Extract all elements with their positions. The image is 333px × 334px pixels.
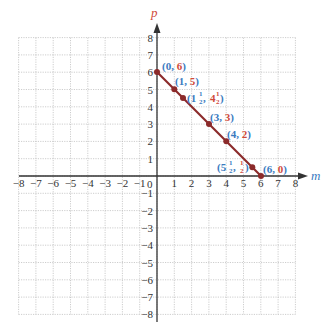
x-axis-arrow-icon [298, 173, 308, 180]
y-tick-label: 8 [148, 32, 154, 44]
svg-text:,: , [233, 161, 236, 173]
point-0-6 [154, 69, 160, 75]
y-tick-label: −7 [141, 291, 153, 303]
y-tick-label: 1 [148, 153, 154, 165]
point-5.5-0.5 [249, 164, 255, 170]
svg-text:2: 2 [240, 167, 244, 175]
svg-text:(5: (5 [217, 161, 227, 174]
x-tick-label: −2 [117, 177, 129, 189]
y-tick-label: −8 [141, 308, 153, 320]
svg-text:): ) [220, 92, 224, 105]
y-tick-label: −6 [141, 274, 153, 286]
label-point-1-5: (1, 5) [175, 75, 199, 88]
y-tick-label: 5 [148, 84, 154, 96]
svg-text:,: , [203, 92, 206, 104]
x-tick-label: −6 [47, 177, 59, 189]
x-tick-label: −7 [30, 177, 42, 189]
point-1.5-4.5 [180, 95, 186, 101]
x-tick-label: −8 [13, 177, 25, 189]
coordinate-plane: −8−7−6−5−4−3−2−112345678−8−7−6−5−4−3−2−1… [0, 0, 333, 334]
y-tick-label: −5 [141, 257, 153, 269]
y-tick-label: −3 [141, 222, 153, 234]
x-tick-label: 8 [293, 177, 299, 189]
y-tick-label: 2 [148, 135, 154, 147]
x-tick-label: 7 [275, 177, 281, 189]
y-tick-label: 3 [148, 118, 154, 130]
y-tick-label: −4 [141, 239, 153, 251]
label-point-1.5-4.5: (1 1 2 , 4 1 2 ) [187, 90, 224, 106]
svg-text:1: 1 [240, 159, 244, 167]
svg-text:): ) [245, 161, 249, 174]
x-tick-label: 5 [241, 177, 247, 189]
point-1-5 [171, 86, 177, 92]
y-tick-label: 6 [148, 66, 154, 78]
label-point-5.5-0.5: (5 1 2 , 1 2 ) [217, 159, 249, 175]
y-axis-arrow-icon [154, 23, 161, 33]
x-tick-label: 3 [206, 177, 212, 189]
x-tick-label: −3 [99, 177, 111, 189]
y-axis-label: p [150, 5, 158, 20]
x-tick-label: −5 [65, 177, 77, 189]
label-point-3-3: (3, 3) [210, 111, 234, 124]
svg-text:(1: (1 [187, 92, 196, 105]
x-tick-label: 1 [172, 177, 178, 189]
label-point-4-2: (4, 2) [227, 128, 251, 141]
label-point-0-6: (0, 6) [162, 60, 186, 73]
y-tick-label: 7 [148, 49, 154, 61]
x-tick-label: 4 [223, 177, 229, 189]
label-point-6-0: (6, 0) [263, 163, 287, 176]
x-axis-label: m [311, 168, 320, 183]
y-tick-label: −2 [141, 205, 153, 217]
x-tick-label: −4 [82, 177, 94, 189]
y-tick-label: 4 [148, 101, 154, 113]
x-tick-label: 2 [189, 177, 195, 189]
origin-label: 0 [147, 178, 153, 190]
